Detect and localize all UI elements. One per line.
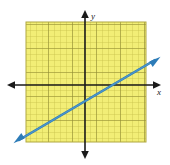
y-axis-down-arrowhead (81, 151, 89, 159)
graph-canvas: y x (0, 0, 170, 165)
x-axis-left-arrowhead (7, 81, 15, 89)
y-axis-label: y (90, 11, 95, 21)
x-axis-label: x (156, 87, 161, 97)
line-upper-right-arrowhead (149, 57, 160, 67)
y-axis-up-arrowhead (81, 10, 89, 18)
coordinate-plane-figure: y x (0, 0, 170, 165)
line-lower-left-arrowhead (14, 133, 25, 143)
